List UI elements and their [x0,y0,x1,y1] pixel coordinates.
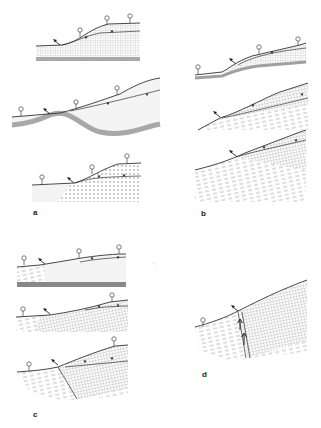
panel-label-b: b [201,209,206,218]
panel-b-section-1 [195,37,306,78]
hydrogeology-diagram [0,0,321,428]
scan-mark [153,262,156,267]
panel-c-section-2 [16,293,128,332]
panel-c-section-1 [17,245,126,287]
panel-a-section-3 [32,154,141,202]
panel-a-section-1 [36,14,140,61]
panel-label-d: d [202,370,207,379]
panel-b-section-2 [198,83,308,130]
panel-label-a: a [33,208,37,217]
panel-c-section-3 [17,337,128,400]
panel-d-section [195,280,307,361]
panel-b-section-3 [195,130,306,202]
panel-label-c: c [33,410,37,419]
panel-a-section-2 [12,78,160,133]
